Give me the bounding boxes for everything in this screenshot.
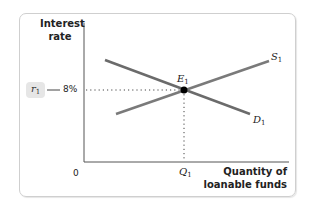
y-axis-label: Interest rate	[40, 17, 80, 43]
y-axis-label-line2: rate	[40, 30, 80, 43]
supply-curve-s1	[116, 61, 269, 114]
x-axis-label-line2: loanable funds	[204, 178, 287, 191]
rate-tick-label: 8%	[63, 84, 77, 94]
e1-label: E1	[177, 73, 189, 86]
y-axis-label-line1: Interest	[40, 17, 80, 30]
d1-label: D1	[253, 114, 266, 127]
origin-label: 0	[73, 168, 79, 178]
x-axis-label: Quantity of loanable funds	[204, 165, 287, 191]
s1-label: S1	[271, 51, 282, 64]
q1-label: Q1	[179, 166, 192, 179]
equilibrium-point-e1	[181, 87, 188, 94]
demand-curve-d1	[105, 60, 250, 114]
r1-label: r1	[31, 83, 40, 96]
x-axis-label-line1: Quantity of	[204, 165, 287, 178]
